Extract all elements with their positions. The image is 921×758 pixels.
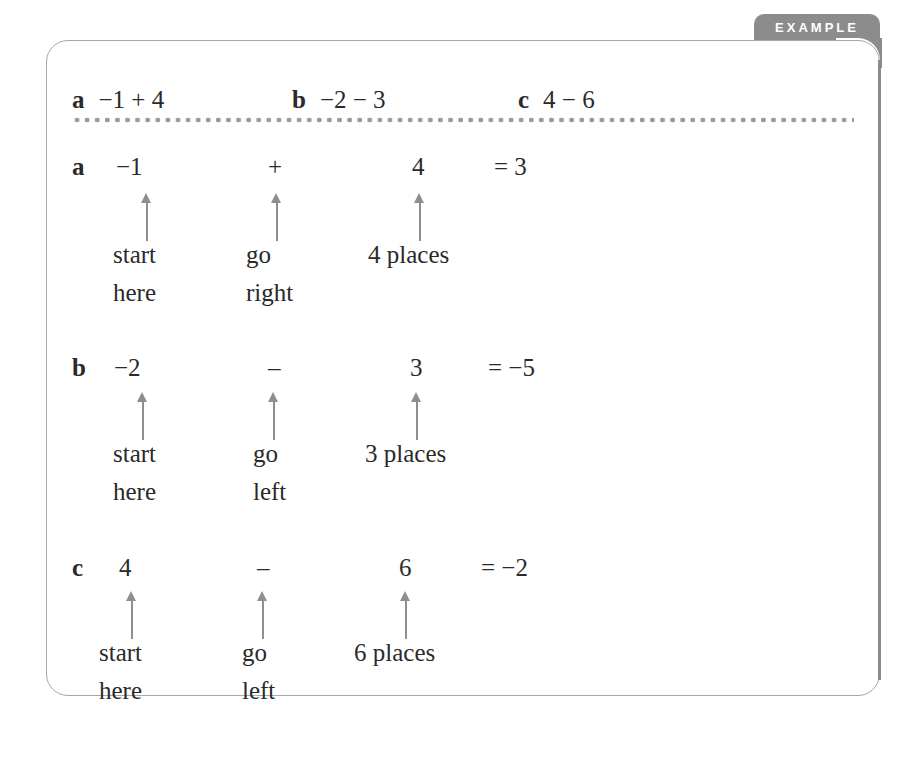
question-letter: a (72, 86, 85, 113)
solution-letter: c (72, 554, 83, 582)
question-b: b−2 − 3 (292, 86, 386, 114)
question-letter: c (518, 86, 529, 113)
start-number: 4 (119, 554, 132, 582)
question-expression: 4 − 6 (543, 86, 595, 113)
example-badge: EXAMPLE (754, 14, 880, 40)
solution-letter: b (72, 354, 86, 382)
direction-label: go left (253, 435, 286, 511)
start-label: start here (99, 634, 142, 710)
operator: – (268, 354, 281, 382)
amount: 4 (412, 153, 425, 181)
operator: + (268, 153, 282, 181)
direction-label: go right (246, 236, 293, 312)
result: = −5 (488, 354, 535, 382)
start-number: −1 (116, 153, 143, 181)
dotted-divider (72, 117, 854, 123)
result: = −2 (481, 554, 528, 582)
amount: 3 (410, 354, 423, 382)
example-box-right-edge (878, 60, 881, 680)
amount: 6 (399, 554, 412, 582)
question-letter: b (292, 86, 306, 113)
start-label: start here (113, 435, 156, 511)
question-a: a−1 + 4 (72, 86, 164, 114)
question-c: c4 − 6 (518, 86, 595, 114)
places-label: 4 places (368, 236, 449, 274)
direction-label: go left (242, 634, 275, 710)
operator: – (257, 554, 270, 582)
example-box (46, 40, 880, 696)
result: = 3 (494, 153, 527, 181)
start-number: −2 (114, 354, 141, 382)
start-label: start here (113, 236, 156, 312)
question-expression: −1 + 4 (99, 86, 165, 113)
solution-letter: a (72, 153, 85, 181)
places-label: 6 places (354, 634, 435, 672)
places-label: 3 places (365, 435, 446, 473)
question-expression: −2 − 3 (320, 86, 386, 113)
